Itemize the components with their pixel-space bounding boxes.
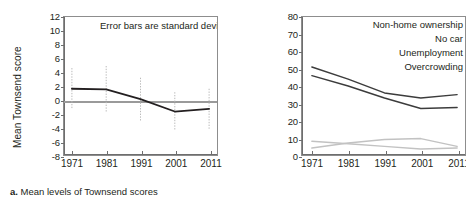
y-tick	[299, 122, 302, 123]
panel-a-caption-prefix: a.	[10, 186, 18, 197]
y-tick-label: 20	[288, 117, 298, 127]
x-tick	[176, 151, 177, 155]
x-tick	[72, 151, 73, 155]
panel-b-legend: Non-home ownershipNo carUnemploymentOver…	[373, 19, 463, 75]
y-tick	[299, 87, 302, 88]
panel-a: Mean Townsend score Error bars are stand…	[0, 0, 233, 205]
x-tick	[422, 151, 423, 155]
y-tick	[299, 105, 302, 106]
y-tick	[61, 101, 64, 102]
x-tick	[312, 151, 313, 155]
y-tick-label: 8	[55, 40, 60, 50]
x-tick-label: 2001	[411, 159, 433, 169]
y-tick	[61, 143, 64, 144]
panel-b: Percentages Non-home ownershipNo carUnem…	[233, 0, 466, 205]
y-tick	[299, 35, 302, 36]
x-tick-label: 1991	[374, 159, 396, 169]
y-tick-label: 0	[55, 96, 60, 106]
y-tick	[61, 115, 64, 116]
y-tick-label: 0	[293, 152, 298, 162]
x-tick-label: 2001	[165, 159, 187, 169]
y-tick-label: -4	[52, 124, 60, 134]
y-tick-label: -8	[52, 152, 60, 162]
legend-label: Unemployment	[373, 47, 463, 58]
y-tick	[61, 45, 64, 46]
x-tick-label: 1971	[61, 159, 83, 169]
y-tick-label: 30	[288, 100, 298, 110]
x-tick	[142, 151, 143, 155]
y-tick-label: 6	[55, 54, 60, 64]
y-tick-label: 10	[50, 26, 60, 36]
y-tick	[61, 129, 64, 130]
x-tick-label: 1981	[96, 159, 118, 169]
y-tick	[61, 87, 64, 88]
y-tick	[299, 140, 302, 141]
series-line	[312, 76, 457, 109]
panel-a-caption-text: Mean levels of Townsend scores	[21, 186, 158, 197]
y-tick-label: 60	[288, 47, 298, 57]
x-tick-label: 1981	[338, 159, 360, 169]
panel-a-caption: a. Mean levels of Townsend scores	[10, 186, 158, 197]
y-tick-label: 2	[55, 82, 60, 92]
y-tick-label: -6	[52, 138, 60, 148]
panel-a-y-axis-title: Mean Townsend score	[12, 46, 23, 148]
y-tick	[61, 31, 64, 32]
y-tick	[299, 17, 302, 18]
y-tick	[299, 52, 302, 53]
x-tick-label: 1971	[301, 159, 323, 169]
x-tick-label: 2011	[200, 159, 222, 169]
y-tick	[61, 17, 64, 18]
panel-a-plot-area: Error bars are standard deviations 12108…	[63, 16, 218, 156]
y-tick-label: 4	[55, 68, 60, 78]
y-tick-label: 10	[288, 135, 298, 145]
panel-b-plot-area: Non-home ownershipNo carUnemploymentOver…	[301, 16, 466, 156]
x-tick-label: 2011	[448, 159, 466, 169]
y-tick	[61, 59, 64, 60]
y-tick-label: 12	[50, 12, 60, 22]
x-tick-label: 1991	[130, 159, 152, 169]
x-tick	[349, 151, 350, 155]
x-tick	[459, 151, 460, 155]
legend-label: Overcrowding	[373, 61, 463, 72]
y-tick	[61, 73, 64, 74]
y-tick-label: 80	[288, 12, 298, 22]
legend-label: Non-home ownership	[373, 19, 463, 30]
figure-root: Mean Townsend score Error bars are stand…	[0, 0, 466, 205]
y-tick-label: 40	[288, 82, 298, 92]
x-tick	[386, 151, 387, 155]
panel-a-series-layer	[64, 17, 217, 155]
y-tick-label: 70	[288, 30, 298, 40]
y-tick-label: 50	[288, 65, 298, 75]
x-tick	[211, 151, 212, 155]
panel-a-annotation: Error bars are standard deviations	[100, 20, 217, 31]
x-tick	[107, 151, 108, 155]
legend-label: No car	[373, 33, 463, 44]
y-tick	[299, 70, 302, 71]
y-tick-label: -2	[52, 110, 60, 120]
